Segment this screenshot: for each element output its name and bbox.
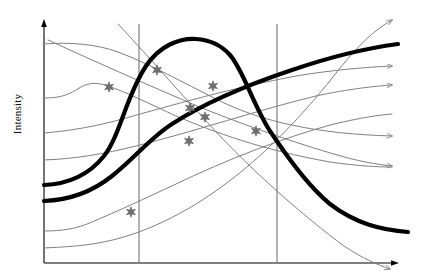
gray-curve-falling-shallow <box>48 40 392 166</box>
marker-3 <box>209 81 218 91</box>
arrow-right-icon <box>391 260 399 266</box>
gray-curve-bottom-rise-left <box>44 114 392 231</box>
marker-group <box>105 65 261 217</box>
arrow-up-icon <box>41 19 47 27</box>
chart-plot <box>0 0 423 280</box>
divider-group <box>139 24 277 262</box>
gray-curve-falling-steep <box>118 24 390 269</box>
marker-8 <box>127 207 136 217</box>
figure-container: Intensity <box>0 0 423 280</box>
marker-6 <box>185 136 194 146</box>
